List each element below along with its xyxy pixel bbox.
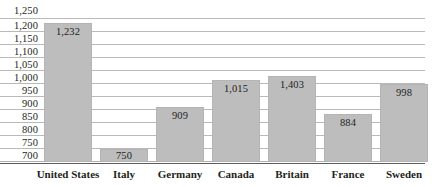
bar-value-italy: 750 xyxy=(100,150,148,162)
category-label-united-states: United States xyxy=(28,167,108,181)
ytick-label-800: 800 xyxy=(0,124,38,135)
ytick-label-950: 950 xyxy=(0,85,38,96)
gridline-1250 xyxy=(0,18,425,19)
ytick-label-1250: 1,250 xyxy=(0,5,38,16)
x-axis-line xyxy=(0,163,425,164)
category-label-canada: Canada xyxy=(208,167,264,181)
ytick-label-700: 700 xyxy=(0,150,38,161)
ytick-label-900: 900 xyxy=(0,98,38,109)
ytick-label-850: 850 xyxy=(0,111,38,122)
ytick-label-1200: 1,200 xyxy=(0,20,38,31)
category-label-britain: Britain xyxy=(264,167,320,181)
ytick-label-1150: 1,150 xyxy=(0,33,38,44)
ytick-label-1050: 1,050 xyxy=(0,59,38,70)
bar-value-sweden: 998 xyxy=(380,87,428,99)
category-label-italy: Italy xyxy=(100,167,148,181)
ytick-label-1000: 1,000 xyxy=(0,72,38,83)
ytick-label-750: 750 xyxy=(0,137,38,148)
category-label-sweden: Sweden xyxy=(376,167,432,181)
category-label-germany: Germany xyxy=(148,167,212,181)
bar-value-united-states: 1,232 xyxy=(44,26,92,38)
plot-area: 1,250 1,200 1,150 1,100 1,050 1,000 950 … xyxy=(0,0,425,163)
bar-value-france: 884 xyxy=(324,117,372,129)
ytick-label-1100: 1,100 xyxy=(0,46,38,57)
bar-value-canada: 1,015 xyxy=(212,83,260,95)
bar-value-germany: 909 xyxy=(156,110,204,122)
bar-united-states[interactable] xyxy=(44,23,92,162)
category-label-france: France xyxy=(320,167,376,181)
bar-value-britain: 1,403 xyxy=(268,79,316,91)
